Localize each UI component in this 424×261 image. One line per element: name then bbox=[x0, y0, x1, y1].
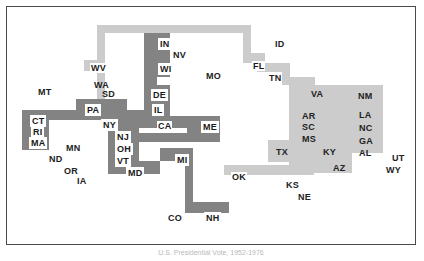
state-label-nj: NJ bbox=[115, 131, 131, 143]
state-label-ut: UT bbox=[391, 153, 405, 163]
state-label-co: CO bbox=[167, 213, 183, 223]
state-label-ca: CA bbox=[157, 121, 172, 131]
state-label-sd: SD bbox=[101, 89, 116, 99]
band-segment bbox=[97, 25, 251, 33]
state-label-la: LA bbox=[358, 110, 372, 120]
state-label-in: IN bbox=[158, 38, 171, 50]
state-label-mo: MO bbox=[205, 71, 222, 81]
state-label-oh: OH bbox=[115, 143, 133, 155]
state-label-ok: OK bbox=[231, 172, 247, 182]
state-label-tx: TX bbox=[275, 147, 289, 157]
state-label-or: OR bbox=[63, 166, 79, 176]
state-label-nh: NH bbox=[204, 212, 221, 224]
state-label-ar: AR bbox=[301, 111, 316, 121]
state-label-wv: WV bbox=[90, 63, 107, 73]
band-segment bbox=[243, 25, 251, 53]
state-label-nm: NM bbox=[357, 91, 373, 101]
figure-caption: U.S. Presidential Vote, 1952-1976 bbox=[6, 249, 416, 256]
state-label-wy: WY bbox=[385, 165, 402, 175]
state-label-id: ID bbox=[274, 39, 285, 49]
state-label-nd: ND bbox=[48, 154, 63, 164]
state-label-wi: WI bbox=[158, 63, 173, 75]
state-label-va: VA bbox=[310, 89, 324, 99]
state-label-ma: MA bbox=[29, 137, 47, 149]
state-label-md: MD bbox=[126, 167, 144, 179]
state-label-al: AL bbox=[358, 148, 372, 158]
state-label-mt: MT bbox=[37, 87, 52, 97]
plot-frame: INNVWIWVMOIDFLTNWAMTSDDEVANMILPALAARCTNY… bbox=[6, 6, 416, 245]
state-label-ms: MS bbox=[301, 134, 317, 144]
state-label-nv: NV bbox=[172, 50, 187, 60]
state-label-ne: NE bbox=[297, 192, 312, 202]
state-label-me: ME bbox=[201, 121, 219, 133]
figure-container: INNVWIWVMOIDFLTNWAMTSDDEVANMILPALAARCTNY… bbox=[0, 0, 424, 261]
state-label-mi: MI bbox=[175, 154, 189, 166]
state-label-mn: MN bbox=[65, 143, 81, 153]
band-segment bbox=[144, 77, 157, 85]
state-label-ny: NY bbox=[101, 119, 118, 131]
state-label-az: AZ bbox=[332, 163, 346, 173]
state-label-vt: VT bbox=[115, 155, 131, 167]
state-label-nc: NC bbox=[358, 123, 373, 133]
state-label-pa: PA bbox=[85, 104, 101, 116]
state-label-sc: SC bbox=[301, 122, 316, 132]
state-label-fl: FL bbox=[252, 61, 265, 71]
state-label-il: IL bbox=[152, 104, 164, 116]
state-label-ks: KS bbox=[285, 180, 300, 190]
state-label-tn: TN bbox=[268, 73, 282, 83]
state-label-ky: KY bbox=[322, 147, 337, 157]
state-label-de: DE bbox=[151, 89, 168, 101]
state-label-ia: IA bbox=[76, 176, 87, 186]
state-label-ga: GA bbox=[358, 136, 374, 146]
